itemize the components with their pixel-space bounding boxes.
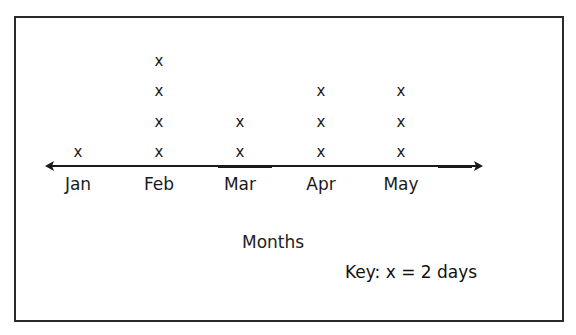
- x-mark: x: [317, 82, 326, 100]
- x-mark: x: [155, 113, 164, 131]
- x-mark: x: [236, 113, 245, 131]
- x-axis-title: Months: [242, 232, 304, 252]
- x-mark: x: [155, 82, 164, 100]
- month-label: Mar: [224, 174, 256, 194]
- month-label: Feb: [144, 174, 174, 194]
- x-mark: x: [155, 143, 164, 161]
- x-mark: x: [397, 143, 406, 161]
- chart-key: Key: x = 2 days: [345, 262, 477, 282]
- x-mark: x: [236, 143, 245, 161]
- x-mark: x: [397, 113, 406, 131]
- x-mark: x: [317, 143, 326, 161]
- month-labels: JanFebMarAprMay: [64, 174, 419, 194]
- x-mark: x: [74, 143, 83, 161]
- x-marks: xxxxxxxxxxxxx: [74, 52, 406, 161]
- x-mark: x: [317, 113, 326, 131]
- month-label: Jan: [64, 174, 91, 194]
- x-mark: x: [155, 52, 164, 70]
- x-mark: x: [397, 82, 406, 100]
- line-plot: xxxxxxxxxxxxx JanFebMarAprMay: [0, 0, 576, 335]
- x-axis: [45, 161, 483, 171]
- month-label: May: [383, 174, 418, 194]
- month-label: Apr: [306, 174, 335, 194]
